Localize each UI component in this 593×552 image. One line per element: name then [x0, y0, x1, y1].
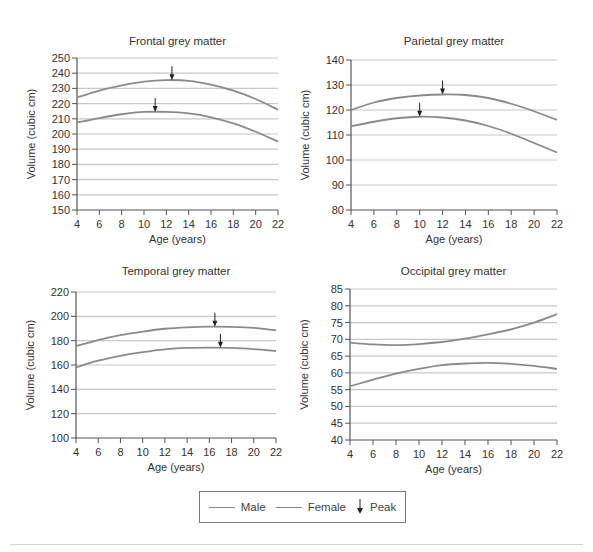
legend: Male Female Peak [199, 491, 406, 523]
y-tick-label: 85 [331, 283, 343, 295]
female-curve [77, 112, 278, 142]
y-tick-label: 140 [51, 383, 69, 395]
female-curve [350, 363, 557, 386]
y-tick-label: 220 [51, 286, 69, 298]
x-tick-label: 16 [482, 218, 494, 230]
x-tick-label: 20 [528, 448, 540, 460]
chart-title: Parietal grey matter [404, 35, 505, 47]
y-tick-label: 240 [52, 67, 70, 79]
figure: Frontal grey matter150160170180190200210… [0, 0, 593, 552]
y-tick-label: 75 [331, 317, 343, 329]
bottom-divider [10, 544, 583, 545]
y-tick-label: 160 [52, 189, 70, 201]
x-axis-label: Age (years) [149, 233, 206, 245]
chart-title: Occipital grey matter [401, 265, 507, 277]
y-tick-label: 100 [51, 432, 69, 444]
x-tick-label: 18 [227, 218, 239, 230]
x-tick-label: 22 [551, 448, 563, 460]
x-tick-label: 10 [137, 446, 149, 458]
x-tick-label: 22 [270, 446, 282, 458]
peak-arrow-icon [440, 81, 445, 95]
female-line-swatch [276, 507, 302, 508]
y-tick-label: 200 [51, 310, 69, 322]
peak-arrow-icon [153, 98, 158, 112]
peak-arrow-icon [212, 313, 217, 327]
temporal-chart: Temporal grey matter10012014016018020022… [24, 265, 282, 473]
y-tick-label: 160 [51, 359, 69, 371]
x-tick-label: 8 [393, 448, 399, 460]
x-tick-label: 20 [248, 446, 260, 458]
x-tick-label: 4 [348, 218, 354, 230]
x-tick-label: 8 [119, 218, 125, 230]
chart-title: Temporal grey matter [122, 265, 231, 277]
x-tick-label: 8 [117, 446, 123, 458]
y-tick-label: 100 [326, 154, 344, 166]
y-axis-label: Volume (cubic cm) [298, 319, 310, 409]
y-tick-label: 70 [331, 333, 343, 345]
y-tick-label: 180 [51, 335, 69, 347]
male-line-swatch [209, 507, 235, 508]
y-tick-label: 170 [52, 174, 70, 186]
x-tick-label: 4 [73, 446, 79, 458]
frontal-chart: Frontal grey matter150160170180190200210… [25, 35, 284, 245]
y-tick-label: 80 [332, 204, 344, 216]
y-tick-label: 190 [52, 143, 70, 155]
y-tick-label: 110 [326, 129, 344, 141]
y-tick-label: 65 [331, 350, 343, 362]
parietal-chart: Parietal grey matter80901001101201301404… [299, 35, 563, 245]
y-tick-label: 55 [331, 384, 343, 396]
y-tick-label: 140 [326, 54, 344, 66]
x-axis-label: Age (years) [148, 461, 205, 473]
y-tick-label: 200 [52, 128, 70, 140]
y-tick-label: 180 [52, 158, 70, 170]
x-tick-label: 6 [370, 448, 376, 460]
y-tick-label: 150 [52, 204, 70, 216]
x-tick-label: 12 [159, 446, 171, 458]
x-tick-label: 16 [205, 218, 217, 230]
x-tick-label: 14 [459, 218, 471, 230]
x-tick-label: 18 [505, 448, 517, 460]
x-axis-label: Age (years) [426, 233, 483, 245]
x-tick-label: 10 [414, 218, 426, 230]
male-curve [351, 94, 557, 120]
y-tick-label: 45 [331, 417, 343, 429]
legend-peak-label: Peak [370, 501, 396, 513]
x-tick-label: 22 [272, 218, 284, 230]
x-tick-label: 14 [183, 218, 195, 230]
x-tick-label: 10 [138, 218, 150, 230]
x-tick-label: 10 [413, 448, 425, 460]
legend-female-label: Female [308, 501, 346, 513]
x-tick-label: 6 [95, 446, 101, 458]
y-tick-label: 250 [52, 52, 70, 64]
x-tick-label: 12 [436, 218, 448, 230]
x-tick-label: 16 [203, 446, 215, 458]
x-tick-label: 18 [505, 218, 517, 230]
y-axis-label: Volume (cubic cm) [299, 90, 311, 180]
y-tick-label: 60 [331, 367, 343, 379]
y-tick-label: 220 [52, 98, 70, 110]
x-tick-label: 12 [436, 448, 448, 460]
y-tick-label: 230 [52, 82, 70, 94]
legend-item-male: Male [209, 501, 266, 513]
x-axis-label: Age (years) [425, 463, 482, 475]
legend-item-female: Female [276, 501, 346, 513]
x-tick-label: 6 [96, 218, 102, 230]
x-tick-label: 18 [225, 446, 237, 458]
occipital-chart: Occipital grey matter4045505560657075808… [298, 265, 563, 475]
x-tick-label: 12 [160, 218, 172, 230]
y-tick-label: 120 [51, 408, 69, 420]
y-axis-label: Volume (cubic cm) [24, 320, 36, 410]
down-arrow-icon [356, 499, 364, 515]
x-tick-label: 8 [394, 218, 400, 230]
x-tick-label: 20 [528, 218, 540, 230]
y-tick-label: 210 [52, 113, 70, 125]
chart-grid: Frontal grey matter150160170180190200210… [0, 0, 593, 552]
male-curve [350, 314, 557, 345]
y-tick-label: 50 [331, 400, 343, 412]
legend-item-peak: Peak [356, 499, 396, 515]
chart-title: Frontal grey matter [129, 35, 226, 47]
y-tick-label: 40 [331, 434, 343, 446]
x-tick-label: 16 [482, 448, 494, 460]
male-curve [77, 80, 278, 110]
y-tick-label: 80 [331, 300, 343, 312]
